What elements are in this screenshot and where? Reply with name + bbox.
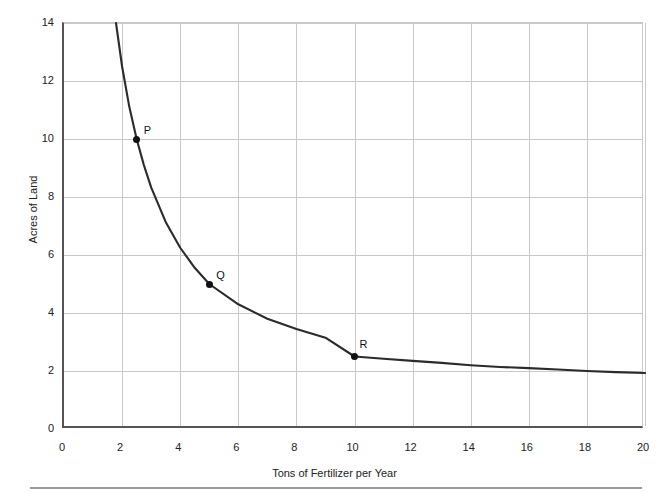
x-axis-ticks: 02468101214161820 — [0, 442, 669, 458]
footer-divider — [30, 487, 642, 489]
data-point-q — [206, 281, 213, 288]
data-point-r — [351, 353, 358, 360]
y-tick-label: 2 — [8, 365, 54, 376]
clipped-header-text — [78, 0, 548, 7]
x-tick-label: 4 — [158, 442, 198, 453]
x-tick-label: 16 — [507, 442, 547, 453]
chart-figure: 02468101214 Acres of Land PQR 0246810121… — [0, 0, 669, 492]
y-tick-label: 4 — [8, 307, 54, 318]
data-point-label-r: R — [360, 339, 368, 350]
plot-area: PQR — [62, 22, 643, 428]
y-tick-label: 10 — [8, 133, 54, 144]
y-tick-label: 12 — [8, 75, 54, 86]
x-tick-label: 8 — [274, 442, 314, 453]
y-tick-label: 14 — [8, 17, 54, 28]
data-point-label-q: Q — [216, 270, 225, 281]
x-tick-label: 0 — [42, 442, 82, 453]
y-axis-label: Acres of Land — [28, 155, 39, 265]
x-axis-label: Tons of Fertilizer per Year — [0, 468, 669, 479]
data-point-p — [133, 136, 140, 143]
x-tick-label: 6 — [216, 442, 256, 453]
x-tick-label: 2 — [100, 442, 140, 453]
isoquant-curve — [64, 23, 645, 429]
x-tick-label: 18 — [565, 442, 605, 453]
x-tick-label: 10 — [333, 442, 373, 453]
x-tick-label: 14 — [449, 442, 489, 453]
y-tick-label: 0 — [8, 423, 54, 434]
data-point-label-p: P — [144, 125, 151, 136]
gridline-v — [645, 23, 646, 426]
x-tick-label: 12 — [391, 442, 431, 453]
x-tick-label: 20 — [623, 442, 663, 453]
